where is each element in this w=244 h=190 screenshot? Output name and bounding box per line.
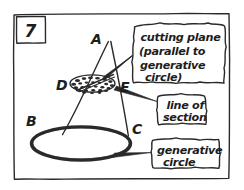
figure-number-label: 7 <box>25 21 37 41</box>
callout-cutting-plane-line-2: (parallel to <box>139 45 206 58</box>
cone-section-figure: 7 <box>0 0 244 190</box>
callout-generative-circle: generative circle <box>151 138 223 169</box>
vertex-label-D: D <box>56 77 68 93</box>
vertex-label-C: C <box>132 121 143 137</box>
vertex-label-A: A <box>90 31 102 47</box>
vertex-label-E: E <box>120 79 130 95</box>
callout-generative-circle-line-2: circle <box>163 156 196 169</box>
callout-cutting-plane-line-4: circle) <box>145 71 182 84</box>
vertex-label-B: B <box>26 113 37 129</box>
leader-generative-circle <box>112 153 152 158</box>
figure-canvas: 7 <box>0 0 244 190</box>
callout-cutting-plane: cutting plane (parallel to generative ci… <box>132 23 226 84</box>
callout-line-of-section-line-2: section <box>163 111 207 124</box>
cone-outline <box>32 42 131 161</box>
cutting-plane-section <box>70 75 115 95</box>
callout-cutting-plane-line-1: cutting plane <box>141 31 222 44</box>
callout-line-of-section: line of section <box>157 94 207 125</box>
